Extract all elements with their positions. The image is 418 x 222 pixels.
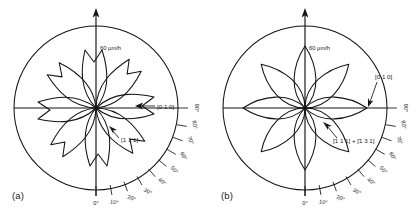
annotation-111-131-b: [̄1 1 ̄1] + [̄1 3 1] [323,122,375,144]
radial-unit-label-b: 60 µm/h [309,45,330,51]
panel-b-caption: (b) [221,190,233,201]
angle-ticks-b [305,108,397,196]
annotation-010-label-b: [0 1 0] [375,73,392,80]
annotation-111-131-label-b: [̄1 1 ̄1] + [̄1 3 1] [333,137,375,144]
svg-text:80°: 80° [191,120,198,129]
svg-text:30°: 30° [352,187,362,196]
svg-text:40°: 40° [366,176,376,186]
panel-b: 0° 10° 20° 30° 40° 50° 60° 70° 80° 90° 6… [209,0,418,222]
svg-text:50°: 50° [170,165,180,175]
panel-a: 0° 10° 20° 30° 40° 50° 60° 70° 80° 90° 6… [0,0,209,222]
svg-text:30°: 30° [143,187,153,196]
panel-a-caption: (a) [12,190,24,201]
polar-etch-rate-figure: 0° 10° 20° 30° 40° 50° 60° 70° 80° 90° 6… [0,0,418,222]
annotation-010-label-a: [0 1 0] [157,103,174,110]
annotation-111-arrowhead-a [109,126,117,134]
svg-text:0°: 0° [93,200,98,206]
svg-text:60°: 60° [179,151,188,161]
annotation-010-b: [0 1 0] [368,73,392,107]
svg-text:20°: 20° [127,194,137,203]
panel-b-plot: 0° 10° 20° 30° 40° 50° 60° 70° 80° 90° 6… [209,0,418,222]
annotation-111-131-arrowhead-b [323,122,332,130]
svg-text:70°: 70° [396,135,405,145]
panel-a-plot: 0° 10° 20° 30° 40° 50° 60° 70° 80° 90° 6… [0,0,209,222]
svg-text:80°: 80° [400,120,407,129]
svg-text:10°: 10° [110,198,119,205]
svg-text:90°: 90° [403,104,409,112]
svg-text:90°: 90° [194,104,200,112]
svg-text:40°: 40° [157,176,167,186]
svg-text:60°: 60° [388,151,397,161]
svg-text:0°: 0° [302,200,307,206]
angle-tick-labels-b: 0° 10° 20° 30° 40° 50° 60° 70° 80° 90° [302,104,409,206]
radial-unit-label-a: 60 µm/h [100,45,121,51]
svg-text:50°: 50° [379,165,389,175]
svg-text:10°: 10° [319,198,328,205]
svg-text:70°: 70° [187,135,196,145]
svg-text:20°: 20° [336,194,346,203]
annotation-111-label-a: [1 1 1] [121,136,138,143]
